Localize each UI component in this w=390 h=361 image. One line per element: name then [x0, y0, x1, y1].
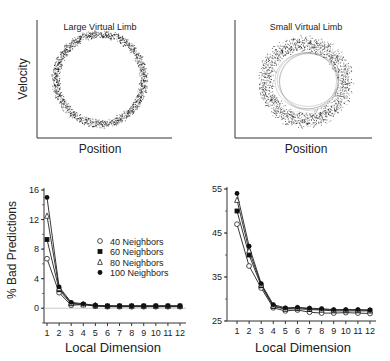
x-tick-label: 3	[69, 328, 74, 338]
x-axis-label: Local Dimension	[255, 340, 351, 355]
y-tick-label: 35	[212, 272, 222, 282]
x-tick-label: 1	[234, 326, 239, 336]
marker-filled-circle	[178, 304, 183, 309]
marker-open-circle	[98, 239, 103, 244]
x-tick-label: 2	[247, 326, 252, 336]
y-tick-label: 16	[29, 185, 39, 195]
marker-filled-circle	[69, 300, 74, 305]
series-line	[237, 200, 370, 310]
panel-small-virtual-limb: Small Virtual Limb Position	[235, 20, 372, 156]
y-tick-label: 45	[212, 228, 222, 238]
marker-filled-square	[45, 237, 50, 242]
marker-open-circle	[235, 222, 240, 227]
x-tick-label: 8	[319, 326, 324, 336]
marker-filled-circle	[93, 303, 98, 308]
marker-filled-circle	[271, 302, 276, 307]
x-tick-label: 3	[259, 326, 264, 336]
marker-open-circle	[247, 264, 252, 269]
marker-filled-circle	[98, 270, 103, 275]
figure: Large Virtual Limb Position Velocity Sma…	[0, 0, 390, 361]
x-axis-label: Position	[79, 142, 122, 156]
x-tick-label: 12	[365, 326, 375, 336]
marker-filled-circle	[105, 304, 110, 309]
panel-bad-predictions-large: % Bad Predictions Local Dimension 048121…	[5, 185, 186, 355]
marker-filled-circle	[117, 304, 122, 309]
panel-large-virtual-limb: Large Virtual Limb Position Velocity	[16, 20, 172, 156]
x-tick-label: 6	[105, 328, 110, 338]
x-axis-label: Local Dimension	[65, 340, 161, 355]
marker-filled-circle	[331, 307, 336, 312]
x-tick-label: 9	[331, 326, 336, 336]
x-tick-label: 2	[57, 328, 62, 338]
x-tick-label: 10	[151, 328, 161, 338]
marker-filled-circle	[235, 191, 240, 196]
marker-open-triangle	[98, 259, 103, 264]
y-tick-label: 4	[34, 274, 39, 284]
series-line	[237, 211, 370, 311]
x-tick-label: 11	[353, 326, 362, 336]
marker-filled-circle	[319, 306, 324, 311]
panel-bad-predictions-small: Local Dimension 25354555123456789101112	[212, 184, 376, 355]
panel-title: Small Virtual Limb	[270, 22, 342, 32]
marker-filled-circle	[166, 304, 171, 309]
panel-title: Large Virtual Limb	[64, 22, 137, 32]
marker-filled-circle	[307, 306, 312, 311]
x-tick-label: 9	[141, 328, 146, 338]
x-tick-label: 11	[163, 328, 172, 338]
marker-filled-circle	[141, 304, 146, 309]
legend-entry: 100 Neighbors	[110, 268, 169, 278]
x-axis-label: Position	[285, 142, 328, 156]
marker-filled-circle	[295, 305, 300, 310]
marker-filled-circle	[81, 301, 86, 306]
marker-filled-circle	[57, 284, 62, 289]
marker-filled-circle	[343, 307, 348, 312]
marker-filled-circle	[259, 281, 264, 286]
x-tick-label: 6	[295, 326, 300, 336]
series-line	[237, 224, 370, 313]
trajectory-ring	[259, 35, 355, 129]
y-tick-label: 8	[34, 244, 39, 254]
y-tick-label: 25	[212, 316, 222, 326]
y-tick-label: 0	[34, 303, 39, 313]
marker-filled-circle	[153, 304, 158, 309]
y-tick-label: 55	[212, 184, 222, 194]
x-tick-label: 4	[81, 328, 86, 338]
x-tick-label: 1	[44, 328, 49, 338]
x-tick-label: 10	[341, 326, 351, 336]
x-tick-label: 7	[307, 326, 312, 336]
marker-filled-circle	[129, 304, 134, 309]
legend-entry: 80 Neighbors	[110, 258, 164, 268]
x-tick-label: 4	[271, 326, 276, 336]
legend: 40 Neighbors60 Neighbors80 Neighbors100 …	[98, 237, 169, 279]
marker-filled-circle	[247, 244, 252, 249]
x-tick-label: 8	[129, 328, 134, 338]
legend-entry: 40 Neighbors	[110, 237, 164, 247]
trajectory-ring	[52, 30, 149, 128]
marker-filled-circle	[356, 307, 361, 312]
x-tick-label: 5	[93, 328, 98, 338]
marker-filled-circle	[45, 195, 50, 200]
marker-filled-circle	[283, 305, 288, 310]
series-line	[237, 193, 370, 310]
marker-filled-square	[98, 249, 103, 254]
marker-open-triangle	[45, 213, 50, 218]
y-axis-label: % Bad Predictions	[5, 201, 19, 299]
legend-entry: 60 Neighbors	[110, 247, 164, 257]
marker-open-circle	[45, 256, 50, 261]
x-tick-label: 7	[117, 328, 122, 338]
x-tick-label: 5	[283, 326, 288, 336]
y-axis-label: Velocity	[16, 58, 30, 99]
y-tick-label: 12	[29, 215, 39, 225]
marker-filled-square	[235, 209, 240, 214]
x-tick-label: 12	[175, 328, 185, 338]
marker-filled-circle	[368, 308, 373, 313]
